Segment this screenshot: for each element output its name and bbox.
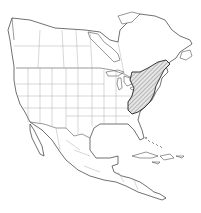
newfoundland	[180, 50, 192, 60]
north-america-range-map	[0, 0, 201, 213]
caribbean-islands	[132, 137, 184, 164]
